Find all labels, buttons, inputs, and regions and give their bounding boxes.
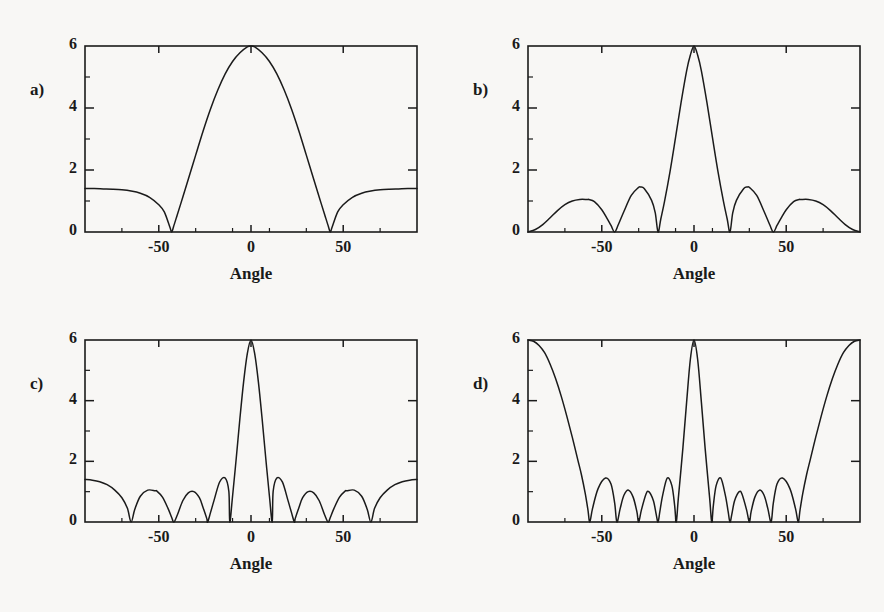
y-tick-label-d-2: 4 [494, 390, 520, 408]
panel-label-d: d) [473, 374, 488, 394]
x-axis-title-d: Angle [634, 554, 754, 574]
y-tick-label-d-3: 6 [494, 329, 520, 347]
x-tick-label-d-1: 0 [669, 528, 719, 546]
curve-array-factor-d [528, 340, 860, 522]
x-tick-label-d-2: 50 [761, 528, 811, 546]
x-tick-label-d-0: -50 [577, 528, 627, 546]
plot-panel-d [0, 0, 884, 612]
y-tick-label-d-1: 2 [494, 450, 520, 468]
figure-four-array-factor-plots: a)-500500246Angleb)-500500246Anglec)-500… [0, 0, 884, 612]
plot-frame-d [528, 340, 860, 522]
y-tick-label-d-0: 0 [494, 511, 520, 529]
